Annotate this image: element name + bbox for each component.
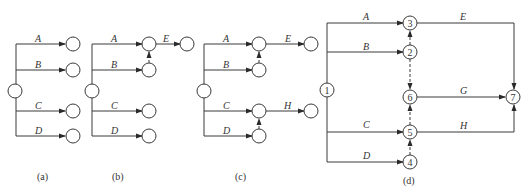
node xyxy=(66,63,80,77)
node xyxy=(66,104,80,118)
activity-label: H xyxy=(459,120,468,131)
diagram-c: A B C D E H (c) xyxy=(197,33,318,183)
activity-label: C xyxy=(363,119,370,130)
caption-a: (a) xyxy=(37,171,48,183)
start-node xyxy=(8,84,22,98)
diagram-b: A B C D E (b) xyxy=(85,33,194,183)
node-number: 4 xyxy=(408,157,413,168)
activity-label: C xyxy=(111,100,118,111)
node-number: 3 xyxy=(408,18,413,29)
activity-label: D xyxy=(34,125,43,136)
node xyxy=(252,104,266,118)
activity-label: C xyxy=(223,100,230,111)
activity-label: E xyxy=(284,33,291,44)
activity-label: G xyxy=(460,85,467,96)
node xyxy=(66,37,80,51)
node xyxy=(142,129,156,143)
activity-label: A xyxy=(34,33,42,44)
start-node xyxy=(197,84,211,98)
diagram-a: A B C D (a) xyxy=(8,33,80,183)
activity-label: A xyxy=(222,33,230,44)
node xyxy=(180,37,194,51)
node-number: 6 xyxy=(408,92,413,103)
node xyxy=(252,63,266,77)
activity-label: B xyxy=(223,59,229,70)
node xyxy=(304,37,318,51)
activity-label: B xyxy=(111,59,117,70)
caption-d: (d) xyxy=(403,175,415,187)
node xyxy=(142,37,156,51)
node xyxy=(66,129,80,143)
caption-b: (b) xyxy=(112,171,124,183)
activity-label: A xyxy=(362,11,370,22)
activity-label: E xyxy=(162,33,169,44)
node xyxy=(304,104,318,118)
caption-c: (c) xyxy=(235,171,246,183)
node xyxy=(142,63,156,77)
node-number: 2 xyxy=(408,47,413,58)
activity-label: D xyxy=(110,125,119,136)
node xyxy=(252,129,266,143)
node-number: 7 xyxy=(511,92,516,103)
activity-label: D xyxy=(362,150,371,161)
diagram-d: 1 2 3 4 5 6 7 A B C D E G H (d) xyxy=(320,11,520,187)
start-node xyxy=(85,84,99,98)
network-diagrams: A B C D (a) A B C D E (b) xyxy=(0,0,528,191)
node-number: 1 xyxy=(325,85,330,96)
node-number: 5 xyxy=(408,127,413,138)
node xyxy=(252,37,266,51)
activity-label: B xyxy=(363,41,369,52)
activity-label: E xyxy=(459,11,466,22)
activity-label: A xyxy=(110,33,118,44)
node xyxy=(142,104,156,118)
activity-label: H xyxy=(283,100,292,111)
activity-label: D xyxy=(222,125,231,136)
activity-label: B xyxy=(35,59,41,70)
activity-label: C xyxy=(35,100,42,111)
